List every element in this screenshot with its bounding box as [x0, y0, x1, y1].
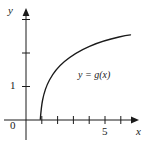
graph-figure: y x 0 1 5 y = g(x)	[0, 0, 147, 148]
origin-tick-label: 0	[10, 120, 16, 131]
y-tick-label-1: 1	[10, 80, 16, 91]
y-axis-label: y	[8, 5, 13, 16]
x-tick-label-5: 5	[102, 126, 108, 137]
x-axis	[4, 117, 139, 124]
y-axis-arrowhead	[23, 8, 30, 16]
x-axis-label: x	[136, 126, 141, 137]
curve-annotation-label: y = g(x)	[78, 70, 110, 80]
x-axis-arrowhead	[131, 117, 139, 124]
plot-area	[0, 0, 147, 148]
